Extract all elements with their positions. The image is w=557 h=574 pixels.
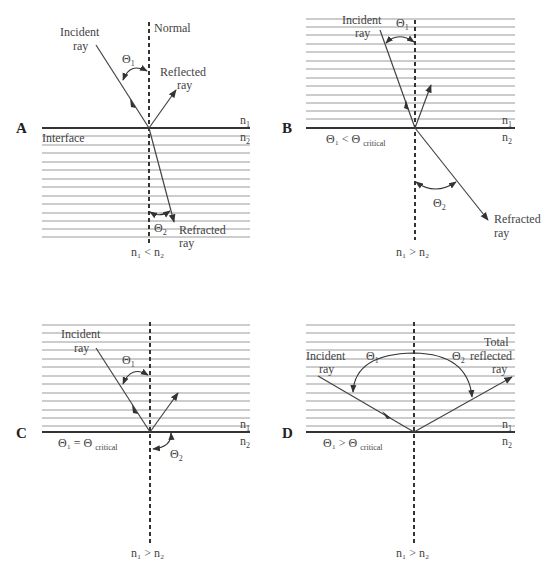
panel-letter: C (16, 425, 27, 441)
reflected-ray-label-line1: Reflected (160, 65, 206, 79)
normal-label: Normal (154, 21, 191, 35)
total-reflected-label-line2: reflected (470, 349, 512, 363)
svg-text:Θ1: Θ1 (366, 349, 379, 365)
critical-condition: Θ₁ < Θ (326, 132, 361, 146)
theta1-arc (386, 37, 414, 43)
incident-ray-label-line2: ray (355, 26, 370, 40)
refracted-ray-label-line1: Refracted (179, 223, 226, 237)
panel-letter: A (16, 120, 27, 136)
hatched-medium-n2 (42, 136, 250, 237)
svg-text:Θ₁ > Θcritical: Θ₁ > Θcritical (323, 436, 383, 452)
svg-text:n2: n2 (502, 130, 512, 146)
panel-letter: B (282, 120, 292, 136)
refraction-diagram: Incident ray Normal Θ1 Reflected ray A I… (0, 0, 557, 574)
incident-ray-label-line2: ray (73, 39, 88, 53)
svg-text:Θ₁ < Θcritical: Θ₁ < Θcritical (326, 132, 386, 148)
svg-text:Θ1: Θ1 (396, 16, 409, 32)
hatched-medium-n1 (306, 19, 515, 119)
svg-text:Θ2: Θ2 (452, 349, 465, 365)
refracted-ray (149, 128, 174, 222)
svg-text:n2: n2 (502, 434, 512, 450)
theta1-symbol: Θ (396, 16, 405, 30)
panel-c: Incident ray Θ1 C n1 n2 Θ₁ = Θcritical Θ… (16, 322, 250, 560)
incident-ray-label-line2: ray (319, 362, 334, 376)
svg-text:n1: n1 (502, 113, 512, 129)
critical-condition: Θ₁ = Θ (58, 436, 93, 450)
theta2-symbol: Θ (433, 196, 442, 210)
panel-a: Incident ray Normal Θ1 Reflected ray A I… (16, 21, 250, 259)
incident-arrow-icon (404, 100, 409, 110)
index-relation: n₁ > n₂ (396, 546, 429, 560)
svg-text:Θ2: Θ2 (154, 221, 167, 237)
theta1-arc (123, 372, 148, 384)
panel-letter: D (282, 425, 293, 441)
svg-text:Θ2: Θ2 (170, 447, 183, 463)
incident-ray-label-line2: ray (74, 341, 89, 355)
reflected-ray-label-line2: ray (177, 78, 192, 92)
incident-ray-label-line1: Incident (60, 25, 100, 39)
theta2-symbol: Θ (170, 447, 179, 461)
incident-ray (380, 30, 415, 128)
svg-text:Θ₁ = Θcritical: Θ₁ = Θcritical (58, 436, 118, 452)
incident-ray-label-line1: Incident (306, 349, 346, 363)
index-relation: n₁ > n₂ (131, 546, 164, 560)
refracted-ray (415, 128, 488, 220)
total-reflected-label-line1: Total (484, 335, 509, 349)
theta2-arc (153, 433, 171, 449)
svg-text:Θ1: Θ1 (122, 52, 135, 68)
refracted-ray-label-line1: Refracted (494, 212, 541, 226)
svg-text:Θ1: Θ1 (122, 353, 135, 369)
theta2-arc (416, 182, 456, 189)
incident-ray-label-line1: Incident (61, 327, 101, 341)
incident-ray-label-line1: Incident (342, 13, 382, 27)
svg-text:n2: n2 (240, 434, 250, 450)
theta1-symbol: Θ (366, 349, 375, 363)
interface-label: Interface (42, 131, 85, 145)
total-reflected-ray (414, 377, 512, 432)
theta2-symbol: Θ (452, 349, 461, 363)
total-reflected-label-line3: ray (492, 362, 507, 376)
svg-text:n1: n1 (240, 113, 250, 129)
index-relation: n₁ < n₂ (131, 245, 164, 259)
reflected-ray (149, 90, 176, 128)
theta1-symbol: Θ (122, 52, 131, 66)
refracted-ray-label-line2: ray (179, 236, 194, 250)
svg-text:n1: n1 (502, 417, 512, 433)
theta2-symbol: Θ (154, 221, 163, 235)
theta1-arc (123, 68, 147, 80)
critical-condition: Θ₁ > Θ (323, 436, 358, 450)
svg-text:n1: n1 (240, 417, 250, 433)
svg-text:n2: n2 (240, 130, 250, 146)
panel-d: Incident ray Θ1 Θ2 Total reflected ray D… (282, 322, 515, 560)
svg-text:Θ2: Θ2 (433, 196, 446, 212)
index-relation: n₁ > n₂ (396, 245, 429, 259)
reflected-ray (415, 85, 431, 128)
panel-b: Incident ray Θ1 B n1 n2 Θ₁ < Θcritical Θ… (282, 13, 541, 259)
refracted-ray-label-line2: ray (494, 226, 509, 240)
theta1-symbol: Θ (122, 353, 131, 367)
